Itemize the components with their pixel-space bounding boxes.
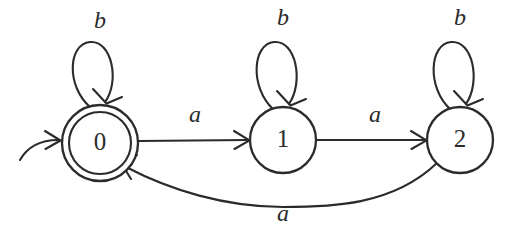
state-2: 2 <box>427 107 493 173</box>
self-loop-state-2: b <box>434 4 483 110</box>
transition-label-2-0: a <box>277 200 289 226</box>
state-1-label: 1 <box>277 125 290 152</box>
transition-1-to-2: a <box>316 101 427 150</box>
state-2-label: 2 <box>454 125 467 152</box>
transition-label-0-1: a <box>189 101 201 127</box>
state-0-label: 0 <box>94 128 107 155</box>
state-1: 1 <box>250 107 316 173</box>
start-arrow <box>20 131 61 160</box>
self-loop-label-state-1: b <box>277 4 289 30</box>
self-loop-state-1: b <box>257 4 306 110</box>
state-0: 0 <box>62 105 138 181</box>
self-loop-state-0: b <box>73 7 122 108</box>
automaton-canvas: a a a b 0 b <box>0 0 528 233</box>
self-loop-label-state-0: b <box>94 7 106 33</box>
transition-label-1-2: a <box>369 101 381 127</box>
automaton-diagram: a a a b 0 b <box>0 0 528 233</box>
self-loop-label-state-2: b <box>454 4 466 30</box>
transition-0-to-1: a <box>139 101 250 150</box>
